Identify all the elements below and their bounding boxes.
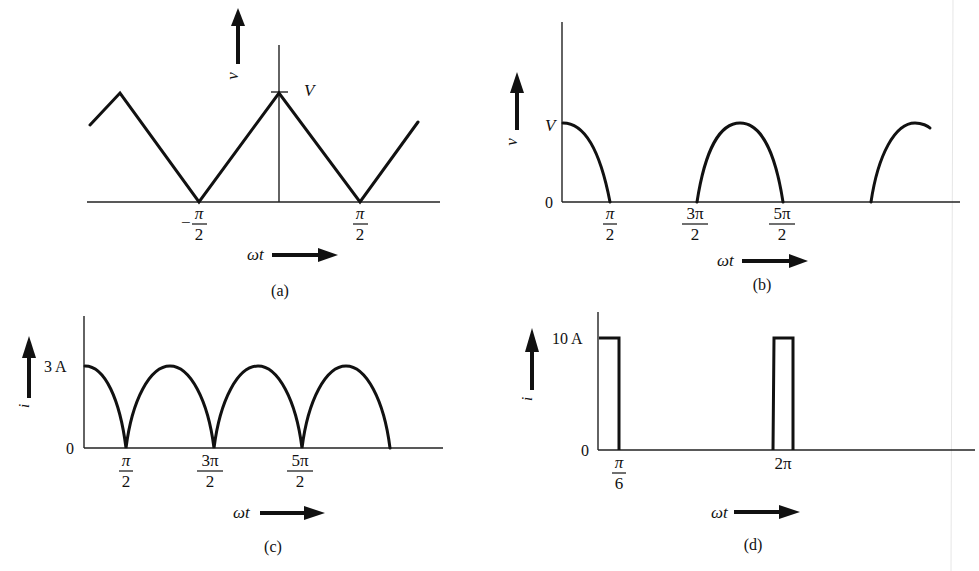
svg-text:π: π <box>122 451 131 470</box>
x-axis-label: ωt <box>711 503 729 522</box>
svg-text:2: 2 <box>606 225 615 244</box>
x-tick-pi-over-2: π 2 <box>603 204 617 244</box>
peak-label: V <box>545 116 558 135</box>
x-tick-5pi-over-2: 5π 2 <box>287 451 313 491</box>
arc-2 <box>697 123 783 202</box>
svg-text:2: 2 <box>122 472 131 491</box>
zero-label: 0 <box>581 442 589 459</box>
x-axis-arrow-icon <box>734 505 800 519</box>
svg-text:3π: 3π <box>201 451 219 470</box>
panel-caption: (d) <box>744 536 763 554</box>
peak-label: 3 A <box>44 358 67 375</box>
y-axis-label: v <box>502 138 521 146</box>
pulse-2 <box>773 338 793 450</box>
svg-text:π: π <box>615 453 624 472</box>
figure: v V − π 2 π 2 ωt (a) v V <box>0 0 979 571</box>
pulse-1 <box>599 338 619 450</box>
x-tick-5pi-over-2: 5π 2 <box>769 204 795 244</box>
svg-text:−: − <box>181 213 191 232</box>
panel-d: i 10 A 0 π 6 2π ωt (d) <box>519 312 975 554</box>
x-tick-neg-pi-over-2: − π 2 <box>181 204 207 244</box>
svg-text:6: 6 <box>615 474 624 493</box>
x-axis-arrow-icon <box>260 506 325 520</box>
x-axis-label: ωt <box>233 503 251 522</box>
x-tick-pi-over-2: π 2 <box>353 204 368 244</box>
svg-text:π: π <box>195 204 204 223</box>
page-edge <box>951 0 953 571</box>
x-axis-arrow-icon <box>272 248 338 262</box>
panel-a: v V − π 2 π 2 ωt (a) <box>87 8 440 300</box>
x-axis-label: ωt <box>247 245 265 264</box>
arc-1 <box>563 123 610 202</box>
panel-caption: (a) <box>271 282 289 300</box>
y-axis-arrow-icon <box>22 336 36 398</box>
panel-caption: (c) <box>264 538 282 556</box>
y-axis-arrow-icon <box>525 328 539 390</box>
x-axis-label: ωt <box>717 251 735 270</box>
x-tick-3pi-over-2: 3π 2 <box>682 204 708 244</box>
svg-text:2: 2 <box>356 225 365 244</box>
rectified-current-waveform <box>85 366 390 448</box>
y-axis-label: v <box>223 72 242 80</box>
y-axis-arrow-icon <box>510 72 524 130</box>
x-tick-3pi-over-2: 3π 2 <box>197 451 223 491</box>
y-axis-label: i <box>16 404 32 408</box>
svg-text:2: 2 <box>195 225 204 244</box>
svg-text:5π: 5π <box>773 204 791 223</box>
svg-text:2: 2 <box>691 225 700 244</box>
peak-label: 10 A <box>552 330 583 347</box>
x-tick-2pi: 2π <box>774 454 792 473</box>
arc-3 <box>871 123 930 202</box>
svg-text:2: 2 <box>296 472 305 491</box>
peak-label: V <box>304 81 317 100</box>
svg-text:5π: 5π <box>291 451 309 470</box>
x-axis-arrow-icon <box>742 254 808 268</box>
panel-caption: (b) <box>753 276 772 294</box>
svg-text:π: π <box>606 204 615 223</box>
y-axis-label: i <box>519 397 535 401</box>
svg-text:π: π <box>356 204 365 223</box>
svg-text:2: 2 <box>778 225 787 244</box>
svg-text:2: 2 <box>206 472 215 491</box>
zero-label: 0 <box>66 440 74 457</box>
y-axis-arrow-icon <box>231 8 245 64</box>
svg-text:3π: 3π <box>686 204 704 223</box>
triangle-waveform <box>90 93 418 202</box>
x-tick-pi-over-2: π 2 <box>119 451 133 491</box>
panel-b: v V 0 π 2 3π 2 5π 2 ωt (b) <box>502 22 960 294</box>
x-tick-pi-over-6: π 6 <box>612 453 626 493</box>
zero-label: 0 <box>545 194 553 211</box>
panel-c: i 3 A 0 π 2 3π 2 5π 2 ωt (c) <box>16 316 443 556</box>
